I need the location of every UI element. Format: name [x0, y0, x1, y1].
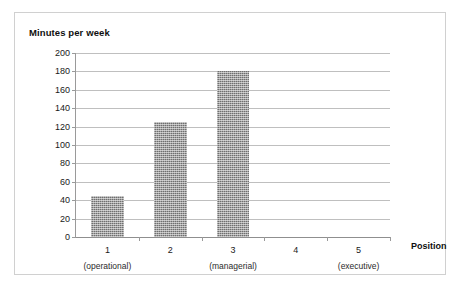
x-axis-tick-mark: [139, 237, 140, 241]
y-axis-tick-mark: [72, 53, 76, 54]
x-axis-tick-mark: [327, 237, 328, 241]
chart-frame: Minutes per week 02040608010012014016018…: [14, 12, 446, 275]
y-axis-tick-mark: [72, 182, 76, 183]
x-axis-title: Position: [411, 241, 447, 251]
x-axis-tick-sublabel: (operational): [84, 261, 132, 271]
x-axis-tick-label: 2: [168, 245, 173, 255]
x-axis-tick-label: 5: [356, 245, 361, 255]
y-axis-tick-label: 80: [60, 158, 70, 168]
y-axis-tick-mark: [72, 71, 76, 72]
y-axis-tick-label: 160: [55, 85, 70, 95]
y-axis-tick-mark: [72, 163, 76, 164]
x-axis-tick-mark: [390, 237, 391, 241]
y-axis-tick-mark: [72, 200, 76, 201]
x-axis-tick-label: 1: [105, 245, 110, 255]
bar: [217, 71, 250, 237]
y-axis-tick-label: 20: [60, 214, 70, 224]
chart-title: Minutes per week: [29, 27, 110, 38]
y-axis-tick-mark: [72, 127, 76, 128]
x-axis-line: [75, 237, 390, 238]
plot-area: 020406080100120140160180200 1(operationa…: [76, 53, 390, 237]
x-axis-tick-sublabel: (managerial): [209, 261, 257, 271]
y-axis-tick-label: 0: [65, 232, 70, 242]
y-axis-tick-label: 120: [55, 122, 70, 132]
bar: [91, 196, 124, 237]
x-axis-tick-label: 4: [293, 245, 298, 255]
bar: [154, 122, 187, 237]
y-axis-tick-label: 60: [60, 177, 70, 187]
y-axis-tick-mark: [72, 90, 76, 91]
y-axis-tick-label: 140: [55, 103, 70, 113]
gridline: [76, 53, 390, 54]
y-axis-tick-label: 100: [55, 140, 70, 150]
y-axis-tick-label: 40: [60, 195, 70, 205]
x-axis-tick-mark: [202, 237, 203, 241]
x-axis-tick-label: 3: [230, 245, 235, 255]
y-axis-tick-label: 180: [55, 66, 70, 76]
x-axis-tick-mark: [264, 237, 265, 241]
y-axis-tick-mark: [72, 219, 76, 220]
y-axis-tick-mark: [72, 108, 76, 109]
y-axis-tick-mark: [72, 237, 76, 238]
x-axis-tick-sublabel: (executive): [338, 261, 380, 271]
y-axis-tick-mark: [72, 145, 76, 146]
y-axis-tick-label: 200: [55, 48, 70, 58]
